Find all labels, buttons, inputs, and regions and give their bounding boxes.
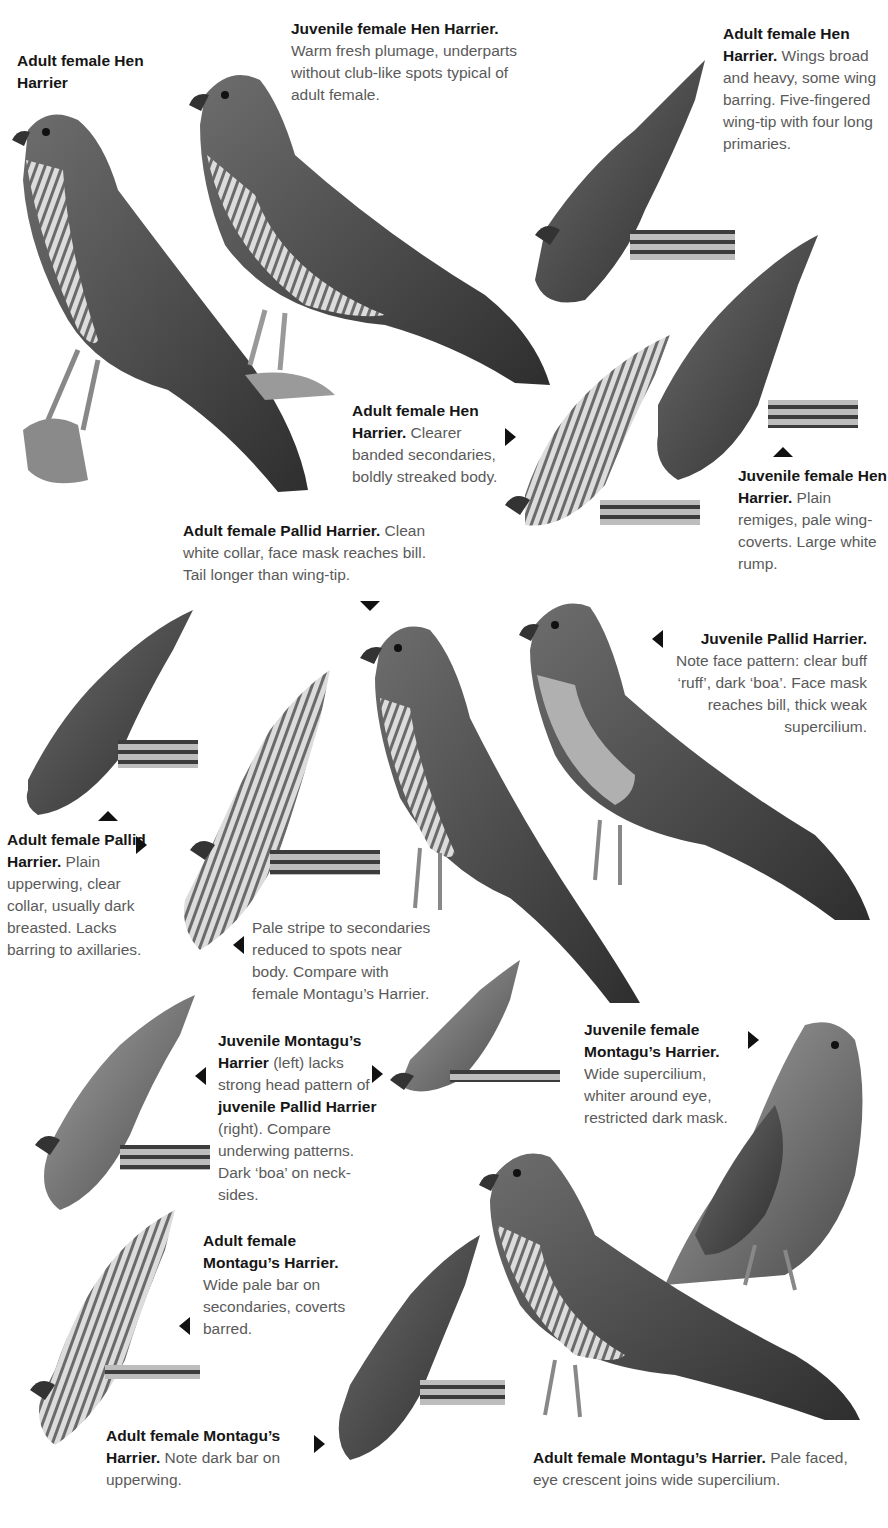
illustration-adult-female-montagus-harrier-flying-under <box>25 1210 205 1450</box>
caption-title: Juvenile female Hen Harrier. <box>291 20 499 37</box>
illustration-juvenile-female-hen-harrier-perched <box>185 65 555 395</box>
caption-body: Wide pale bar on secondaries, coverts ba… <box>203 1276 345 1337</box>
pointer-left-icon <box>233 936 244 954</box>
pointer-left-icon <box>195 1067 206 1085</box>
caption-juvenile-female-hen-harrier-perched: Juvenile female Hen Harrier. Warm fresh … <box>291 18 536 106</box>
caption-juvenile-montagus-vs-pallid-flying: Juvenile Montagu’s Harrier (left) lacks … <box>218 1030 378 1206</box>
caption-juvenile-female-hen-harrier-flying: Juvenile female Hen Harrier. Plain remig… <box>738 465 888 575</box>
caption-title: juvenile Pallid Harrier <box>218 1098 377 1115</box>
caption-title: Juvenile Pallid Harrier. <box>701 630 867 647</box>
illustration-adult-female-pallid-harrier-flying-upper <box>18 610 203 820</box>
caption-adult-female-pallid-harrier-flying-upper: Adult female Pallid Harrier. Plain upper… <box>7 829 157 961</box>
pointer-left-icon <box>652 630 663 648</box>
pointer-up-icon <box>98 811 118 821</box>
pointer-right-icon <box>748 1031 759 1049</box>
pointer-right-icon <box>136 836 147 854</box>
caption-body: (right). Compare underwing patterns. Dar… <box>218 1120 354 1203</box>
illustration-adult-female-pallid-harrier-flying-under <box>180 670 380 955</box>
caption-title: Adult female Montagu’s Harrier. <box>203 1232 339 1271</box>
illustration-juvenile-montagus-harrier-flying <box>30 995 215 1215</box>
caption-title: Adult female Pallid Harrier. <box>183 522 380 539</box>
pointer-up-icon <box>773 447 793 457</box>
illustration-adult-female-montagus-harrier-perched <box>475 1145 865 1430</box>
caption-juvenile-pallid-harrier-perched: Juvenile Pallid Harrier. Note face patte… <box>665 628 867 738</box>
caption-body: Wide supercilium, whiter around eye, res… <box>584 1065 728 1126</box>
caption-adult-female-montagus-harrier-flying-under: Adult female Montagu’s Harrier. Wide pal… <box>203 1230 368 1340</box>
caption-title: Adult female Montagu’s Harrier. <box>533 1449 766 1466</box>
caption-adult-female-hen-harrier-perched: Adult female Hen Harrier <box>17 50 147 94</box>
caption-adult-female-montagus-harrier-perched: Adult female Montagu’s Harrier. Pale fac… <box>533 1447 853 1491</box>
caption-title: Juvenile female Montagu’s Harrier. <box>584 1021 720 1060</box>
caption-body: Note face pattern: clear buff ‘ruff’, da… <box>676 652 867 735</box>
caption-juvenile-female-montagus-harrier-perched: Juvenile female Montagu’s Harrier. Wide … <box>584 1019 749 1129</box>
pointer-right-icon <box>505 428 516 446</box>
caption-body: Pale stripe to secondaries reduced to sp… <box>252 919 430 1002</box>
caption-adult-female-hen-harrier-flying-under: Adult female Hen Harrier. Clearer banded… <box>352 400 507 488</box>
pointer-right-icon <box>372 1065 383 1083</box>
caption-adult-female-pallid-harrier-flying-under: Pale stripe to secondaries reduced to sp… <box>252 917 437 1005</box>
illustration-adult-female-hen-harrier-flying-under <box>505 335 705 535</box>
caption-body: Warm fresh plumage, underparts without c… <box>291 42 517 103</box>
pointer-left-icon <box>179 1317 190 1335</box>
pointer-right-icon <box>314 1435 325 1453</box>
caption-adult-female-hen-harrier-flying-upper: Adult female Hen Harrier. Wings broad an… <box>723 23 888 155</box>
caption-title: Adult female Hen Harrier <box>17 52 144 91</box>
caption-adult-female-pallid-harrier-perched: Adult female Pallid Harrier. Clean white… <box>183 520 428 586</box>
pointer-down-icon <box>360 601 380 611</box>
caption-adult-female-montagus-harrier-flying-upper: Adult female Montagu’s Harrier. Note dar… <box>106 1425 311 1491</box>
